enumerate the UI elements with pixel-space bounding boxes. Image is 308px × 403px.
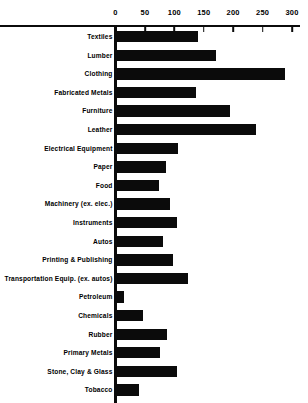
bar [116, 254, 174, 265]
bar-row: Electrical Equipment [0, 141, 308, 160]
bar-row: Lumber [0, 48, 308, 67]
x-axis-tick-label: 250 [256, 8, 269, 18]
bar-category-label: Fabricated Metals [0, 85, 113, 99]
bar [116, 143, 179, 154]
x-axis-line [0, 25, 300, 27]
bar-category-label: Instruments [0, 215, 113, 229]
bar-row: Paper [0, 159, 308, 178]
bar-category-label: Textiles [0, 29, 113, 43]
bar [116, 310, 144, 321]
bar [116, 273, 189, 284]
bar-row: Food [0, 178, 308, 197]
bar [116, 329, 168, 340]
bar-track [116, 252, 293, 271]
bar-track [116, 196, 293, 215]
bar-category-label: Electrical Equipment [0, 141, 113, 155]
x-axis-tick-label: 50 [141, 8, 150, 18]
bar-row: Furniture [0, 103, 308, 122]
bar-category-label: Clothing [0, 66, 113, 80]
bar-row: Petroleum [0, 289, 308, 308]
bar-category-label: Printing & Publishing [0, 252, 113, 266]
bar-category-label: Petroleum [0, 289, 113, 303]
x-axis-tick-label: 0 [113, 8, 117, 18]
bar-track [116, 289, 293, 308]
bar-track [116, 48, 293, 67]
x-axis-tick-mark [174, 27, 176, 32]
x-axis-tick-mark [232, 27, 234, 32]
bar-category-label: Stone, Clay & Glass [0, 364, 113, 378]
bar [116, 180, 160, 191]
bar [116, 68, 285, 79]
bar [116, 105, 230, 116]
bar-track [116, 327, 293, 346]
bar-track [116, 271, 293, 290]
bar-track [116, 178, 293, 197]
bar-track [116, 122, 293, 141]
bar-row: Clothing [0, 66, 308, 85]
x-axis-tick-mark [203, 27, 205, 32]
bar [116, 384, 140, 395]
bar-row: Instruments [0, 215, 308, 234]
x-axis-tick-label: 100 [168, 8, 181, 18]
bar-row: Autos [0, 234, 308, 253]
bar-row: Machinery (ex. elec.) [0, 196, 308, 215]
bar-category-label: Rubber [0, 327, 113, 341]
bar-track [116, 215, 293, 234]
bar [116, 236, 164, 247]
bar [116, 87, 197, 98]
bar-row: Primary Metals [0, 345, 308, 364]
bar-track [116, 85, 293, 104]
bar-track [116, 308, 293, 327]
bar-track [116, 234, 293, 253]
bar-track [116, 66, 293, 85]
bar [116, 31, 198, 42]
x-axis-tick-mark [262, 27, 264, 32]
bar-category-label: Leather [0, 122, 113, 136]
bar-rows: TextilesLumberClothingFabricated MetalsF… [0, 29, 308, 401]
bar-category-label: Transportation Equip. (ex. autos) [0, 271, 113, 285]
bar-row: Printing & Publishing [0, 252, 308, 271]
bar-category-label: Machinery (ex. elec.) [0, 196, 113, 210]
bar-category-label: Chemicals [0, 308, 113, 322]
bar [116, 124, 256, 135]
x-axis-tick-mark [115, 27, 117, 32]
bar-row: Rubber [0, 327, 308, 346]
bar-category-label: Primary Metals [0, 345, 113, 359]
bar-track [116, 382, 293, 401]
bar-category-label: Tobacco [0, 382, 113, 396]
bar [116, 198, 171, 209]
bar-track [116, 159, 293, 178]
x-axis-tick-mark [144, 27, 146, 32]
bar-category-label: Furniture [0, 103, 113, 117]
bar-track [116, 345, 293, 364]
bar-track [116, 364, 293, 383]
bar-category-label: Lumber [0, 48, 113, 62]
x-axis-tick-label: 150 [197, 8, 210, 18]
bar [116, 347, 160, 358]
bar [116, 50, 216, 61]
x-axis-tick-label: 300 [285, 8, 298, 18]
x-axis-tick-labels: 050100150200250300 [0, 8, 308, 22]
bar-row: Tobacco [0, 382, 308, 401]
x-axis-tick-label: 200 [227, 8, 240, 18]
bar [116, 161, 167, 172]
bar-row: Stone, Clay & Glass [0, 364, 308, 383]
bar [116, 291, 125, 302]
bar-row: Fabricated Metals [0, 85, 308, 104]
bar-track [116, 141, 293, 160]
bar-row: Chemicals [0, 308, 308, 327]
bar-category-label: Autos [0, 234, 113, 248]
bar-row: Transportation Equip. (ex. autos) [0, 271, 308, 290]
bar [116, 217, 178, 228]
bar-row: Leather [0, 122, 308, 141]
bar-category-label: Food [0, 178, 113, 192]
x-axis-tick-mark [291, 27, 293, 32]
bar [116, 366, 178, 377]
bar-track [116, 103, 293, 122]
bar-category-label: Paper [0, 159, 113, 173]
